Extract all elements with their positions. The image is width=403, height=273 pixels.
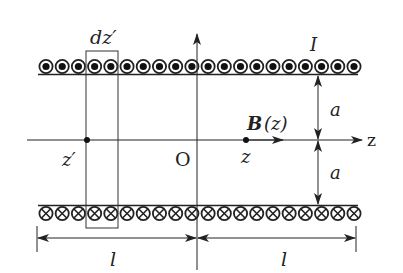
coil-out-of-page [283,60,296,73]
label-half-length-left: l [110,248,116,270]
coil-into-page [39,207,52,220]
label-dz-prime: dz′ [90,26,117,48]
coil-out-of-page [72,60,85,73]
label-source-point: z′ [61,149,76,170]
label-current: I [309,34,318,55]
coil-out-of-page [234,60,247,73]
solenoid-diagram: dz′ I B (z) a a z O z′ z l l [0,0,403,273]
coil-out-of-page [250,60,263,73]
label-origin: O [175,148,191,170]
source-point-dot [84,137,90,143]
label-axis-z: z [367,130,376,150]
top-winding-row [39,60,360,73]
label-field-point: z [240,146,251,167]
coil-out-of-page [169,60,182,73]
coil-out-of-page [202,60,215,73]
coil-out-of-page [88,60,101,73]
coil-out-of-page [153,60,166,73]
coil-out-of-page [137,60,150,73]
coil-into-page [331,207,344,220]
bottom-winding-row [39,207,360,220]
coil-into-page [72,207,85,220]
coil-into-page [88,207,101,220]
coil-into-page [169,207,182,220]
label-half-length-right: l [281,248,287,270]
coil-out-of-page [56,60,69,73]
coil-out-of-page [315,60,328,73]
coil-out-of-page [218,60,231,73]
coil-out-of-page [299,60,312,73]
coil-out-of-page [347,60,360,73]
coil-out-of-page [39,60,52,73]
coil-into-page [250,207,263,220]
coil-into-page [218,207,231,220]
coil-into-page [283,207,296,220]
label-radius-bottom: a [330,162,341,183]
field-point-dot [243,137,249,143]
coil-out-of-page [266,60,279,73]
coil-into-page [347,207,360,220]
coil-into-page [202,207,215,220]
label-field-B: B [246,113,262,134]
coil-into-page [299,207,312,220]
coil-into-page [120,207,133,220]
coil-out-of-page [331,60,344,73]
label-radius-top: a [330,99,341,120]
coil-out-of-page [104,60,117,73]
coil-out-of-page [120,60,133,73]
coil-into-page [56,207,69,220]
coil-into-page [234,207,247,220]
coil-into-page [137,207,150,220]
label-field-arg: (z) [264,113,288,134]
coil-into-page [315,207,328,220]
coil-into-page [266,207,279,220]
coil-into-page [104,207,117,220]
coil-into-page [153,207,166,220]
